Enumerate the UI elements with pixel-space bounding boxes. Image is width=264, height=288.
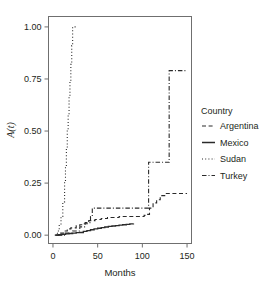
x-axis-title: Months (104, 267, 135, 278)
legend-label-sudan: Sudan (220, 154, 246, 164)
y-tick-label: 0.00 (24, 230, 42, 240)
y-tick-label: 1.00 (24, 22, 42, 32)
y-axis-title: A(t) (5, 122, 17, 139)
legend-label-mexico: Mexico (220, 138, 249, 148)
x-tick-label: 150 (180, 251, 195, 261)
x-tick-label: 50 (93, 251, 103, 261)
chart-figure: 050100150 0.000.250.500.751.00 Months A(… (0, 0, 264, 288)
y-tick-label: 0.75 (24, 74, 42, 84)
chart-canvas: 050100150 0.000.250.500.751.00 Months A(… (0, 0, 264, 288)
legend-label-argentina: Argentina (220, 121, 259, 131)
x-tick-label: 0 (50, 251, 55, 261)
y-tick-label: 0.25 (24, 178, 42, 188)
y-tick-label: 0.50 (24, 126, 42, 136)
legend-label-turkey: Turkey (220, 171, 248, 181)
x-tick-label: 100 (135, 251, 150, 261)
legend-title: Country (201, 106, 233, 116)
